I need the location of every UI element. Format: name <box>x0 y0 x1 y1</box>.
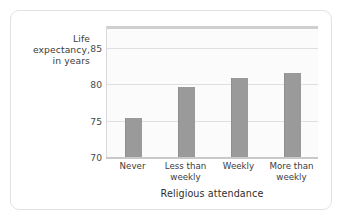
x-tick-label-more-than-weekly: More than weekly <box>261 161 323 182</box>
y-axis-tick-labels: 70 75 80 85 <box>78 26 102 159</box>
y-tick-label-85: 85 <box>80 42 102 53</box>
x-axis-tick-labels: Never Less than weekly Weekly More than … <box>106 161 318 187</box>
y-tick-label-80: 80 <box>80 79 102 90</box>
plot-top-cap <box>106 26 318 29</box>
x-tick-label-less-than-weekly-line-2: weekly <box>155 172 217 183</box>
x-tick-label-more-than-weekly-line-1: More than <box>261 161 323 172</box>
bar-more-than-weekly <box>284 73 301 157</box>
chart-figure: Life expectancy, in years 70 75 80 85 Ne… <box>0 0 344 221</box>
bar-weekly <box>231 78 248 157</box>
x-axis-baseline <box>106 157 318 159</box>
y-tick-label-75: 75 <box>80 115 102 126</box>
gridline-85 <box>106 48 318 49</box>
x-axis-title: Religious attendance <box>106 188 318 199</box>
bar-never <box>125 118 142 157</box>
x-tick-label-more-than-weekly-line-2: weekly <box>261 172 323 183</box>
plot-left-spine <box>106 26 107 159</box>
y-tick-label-70: 70 <box>80 152 102 163</box>
bar-less-than-weekly <box>178 87 195 157</box>
plot-area <box>106 26 318 159</box>
